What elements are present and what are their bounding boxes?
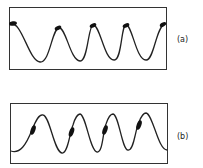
panel-b-label: (b): [177, 132, 188, 141]
panel-a-wave: [10, 24, 165, 62]
panel-a-label: (a): [177, 35, 188, 44]
panel-b-frame: [11, 104, 168, 164]
panel-a-blobs: [9, 21, 167, 32]
wave-diagram: [0, 0, 203, 168]
panel-b: [11, 104, 168, 164]
panel-b-wave: [11, 113, 167, 153]
panel-b-blobs: [29, 120, 143, 138]
panel-a: [9, 8, 167, 70]
